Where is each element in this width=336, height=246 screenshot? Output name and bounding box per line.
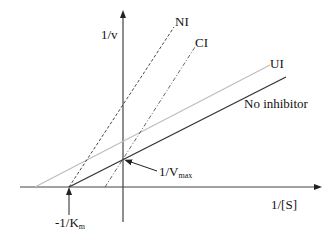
vmax-label-main: 1/V [159, 164, 179, 179]
km-label: -1/Km [55, 216, 85, 231]
y-axis-label: 1/v [101, 28, 118, 41]
ni-label: NI [175, 15, 189, 28]
vmax-pointer-arrow [128, 161, 157, 171]
km-label-main: -1/K [55, 215, 79, 230]
vmax-label: 1/Vmax [159, 165, 192, 180]
ui-label: UI [270, 57, 284, 70]
km-label-sub: m [79, 222, 85, 231]
no-inhibitor-label: No inhibitor [244, 97, 308, 110]
vmax-label-sub: max [179, 171, 193, 180]
noncompetitive-inhibitor-line [69, 27, 174, 187]
ci-label: CI [195, 36, 208, 49]
x-axis-label: 1/[S] [271, 198, 297, 211]
uncompetitive-inhibitor-line [35, 65, 270, 187]
